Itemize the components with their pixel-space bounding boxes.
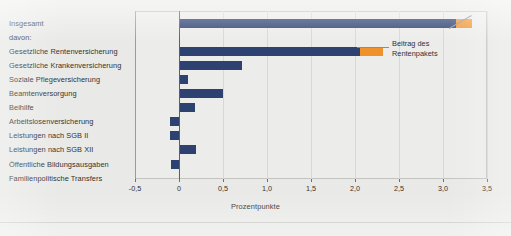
bar-row <box>135 143 487 156</box>
bar-row <box>135 129 487 142</box>
x-axis-tick-label: 2,5 <box>394 184 404 193</box>
x-axis-tick-label: 1,5 <box>306 184 316 193</box>
bar-segment-base <box>179 75 188 84</box>
gridline <box>487 11 488 179</box>
leader-line-rentenversicherung <box>357 47 389 48</box>
bar-segment-base <box>179 19 456 28</box>
category-label: Gesetzliche Rentenversicherung <box>9 45 131 58</box>
zero-axis-line <box>179 11 180 179</box>
caption-clipped: · · · ·· · ·· · ·· · · · · ·· · · · ·· ·… <box>0 226 511 236</box>
bar-row <box>135 59 487 72</box>
category-label: Öffentliche Bildungsausgaben <box>9 158 131 171</box>
category-label: Beamtenversorgung <box>9 87 131 100</box>
bar-row <box>135 17 487 30</box>
bar-segment-base <box>179 89 223 98</box>
x-axis-tick <box>487 179 488 182</box>
x-axis-tick-label: 3,5 <box>482 184 492 193</box>
caption-text: · · · ·· · ·· · ·· · · · · ·· · · · ·· ·… <box>14 226 145 228</box>
bar-segment-base <box>179 103 195 112</box>
bar-segment-base <box>170 131 179 140</box>
annotation-line-2: Rentenpakets <box>392 49 438 59</box>
x-axis-tick <box>223 179 224 182</box>
bar-segment-base <box>179 61 242 70</box>
bar-row <box>135 115 487 128</box>
category-label: Leistungen nach SGB II <box>9 129 131 142</box>
category-label: Familienpolitische Transfers <box>9 172 131 185</box>
category-label: Insgesamt <box>9 17 131 30</box>
plot-area <box>135 11 487 179</box>
x-axis-tick <box>311 179 312 182</box>
bar-row <box>135 87 487 100</box>
x-axis-tick-label: 3,0 <box>438 184 448 193</box>
x-axis-tick <box>179 179 180 182</box>
category-label: Arbeitslosenversicherung <box>9 115 131 128</box>
chart-figure: Insgesamtdavon:Gesetzliche Rentenversich… <box>0 0 511 236</box>
category-label: davon: <box>9 31 131 44</box>
x-axis-tick <box>399 179 400 182</box>
bar-segment-base <box>179 47 360 56</box>
category-label-column: Insgesamtdavon:Gesetzliche Rentenversich… <box>0 0 135 190</box>
bar-row <box>135 73 487 86</box>
x-axis-tick-label: 1,0 <box>262 184 272 193</box>
x-axis-tick <box>267 179 268 182</box>
annotation-line-1: Beitrag des <box>392 39 438 49</box>
bar-segment-base <box>179 145 196 154</box>
x-axis-tick-label: 0,5 <box>218 184 228 193</box>
x-axis-title: Prozentpunkte <box>0 202 511 211</box>
caption-divider <box>0 222 511 223</box>
x-axis-tick-label: 2,0 <box>350 184 360 193</box>
x-axis-tick-label: -0,5 <box>129 184 141 193</box>
bar-segment-base <box>171 160 179 169</box>
bar-segment-base <box>170 117 179 126</box>
bar-row <box>135 158 487 171</box>
bar-segment-rentenpaket <box>360 47 383 56</box>
x-axis-tick-label: 0 <box>177 184 181 193</box>
category-label: Soziale Pflegeversicherung <box>9 73 131 86</box>
x-axis-tick <box>443 179 444 182</box>
annotation-rentenpaket: Beitrag des Rentenpakets <box>392 39 438 58</box>
category-label: Leistungen nach SGB XII <box>9 143 131 156</box>
category-label: Beihilfe <box>9 101 131 114</box>
x-axis: -0,500,51,01,52,02,53,03,5 <box>135 179 487 201</box>
x-axis-tick <box>135 179 136 182</box>
x-axis-tick <box>355 179 356 182</box>
bar-row <box>135 101 487 114</box>
category-label: Gesetzliche Krankenversicherung <box>9 59 131 72</box>
